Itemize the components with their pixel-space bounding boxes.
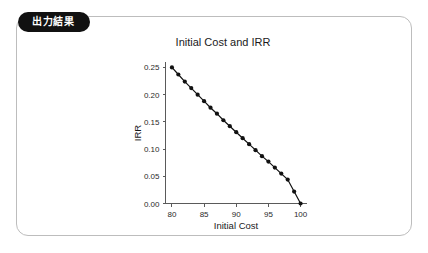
- output-result-tab[interactable]: 出力結果: [18, 12, 90, 32]
- data-point: [215, 112, 219, 116]
- chart-figure: Initial Cost and IRR 0.000.050.100.150.2…: [17, 17, 413, 235]
- data-point: [260, 154, 264, 158]
- data-point: [176, 72, 180, 76]
- y-tick-label: 0.00: [144, 200, 160, 209]
- x-tick-label: 90: [232, 210, 241, 219]
- data-point: [253, 148, 257, 152]
- y-tick-label: 0.20: [144, 91, 160, 100]
- data-point: [228, 124, 232, 128]
- data-point: [208, 106, 212, 110]
- x-axis-label: Initial Cost: [214, 220, 259, 231]
- x-tick-label: 80: [167, 210, 176, 219]
- data-point: [189, 86, 193, 90]
- y-tick-label: 0.15: [144, 118, 160, 127]
- y-axis-ticks: 0.000.050.100.150.200.25: [144, 63, 166, 208]
- data-point: [183, 79, 187, 83]
- data-point: [247, 142, 251, 146]
- y-axis-label: IRR: [132, 125, 143, 142]
- data-point: [286, 177, 290, 181]
- data-point: [298, 201, 302, 205]
- data-point: [241, 136, 245, 140]
- output-result-card: Initial Cost and IRR 0.000.050.100.150.2…: [16, 16, 412, 236]
- y-tick-label: 0.25: [144, 63, 160, 72]
- data-point: [196, 93, 200, 97]
- data-point: [292, 189, 296, 193]
- initial-cost-irr-chart: Initial Cost and IRR 0.000.050.100.150.2…: [17, 17, 413, 235]
- data-point: [266, 159, 270, 163]
- x-axis-ticks: 80859095100: [167, 204, 307, 219]
- output-result-tab-label: 出力結果: [32, 17, 74, 27]
- y-tick-label: 0.10: [144, 145, 160, 154]
- x-tick-label: 100: [294, 210, 308, 219]
- data-point: [221, 118, 225, 122]
- y-tick-label: 0.05: [144, 172, 160, 181]
- data-point: [170, 65, 174, 69]
- data-point: [202, 99, 206, 103]
- x-tick-label: 85: [200, 210, 209, 219]
- data-point: [273, 165, 277, 169]
- x-tick-label: 95: [264, 210, 273, 219]
- data-point: [234, 130, 238, 134]
- data-point: [279, 171, 283, 175]
- chart-title: Initial Cost and IRR: [176, 36, 271, 48]
